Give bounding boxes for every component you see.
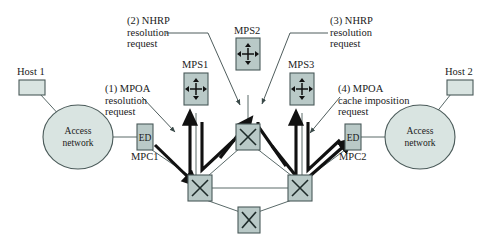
annotation-2: (2) NHRP resolution request <box>127 15 170 50</box>
switch-right[interactable] <box>288 175 312 201</box>
ed1-label: ED <box>139 133 152 143</box>
mps3-node[interactable] <box>290 73 314 105</box>
link-swright-swbottom <box>258 200 292 212</box>
annotation-1: (1) MPOA resolution request <box>105 83 150 118</box>
diagram-canvas: Access network Access network ED ED <box>0 0 493 248</box>
access-network-left-line1: Access <box>65 126 92 136</box>
host1-label: Host 1 <box>17 66 45 78</box>
host2-label: Host 2 <box>445 66 473 78</box>
mps2-node[interactable] <box>236 38 260 70</box>
flow-mpoa-request-1 <box>155 145 189 178</box>
access-network-left-line2: network <box>62 138 93 148</box>
mps2-label: MPS2 <box>234 25 260 37</box>
ed2-label: ED <box>347 133 360 143</box>
mps3-label: MPS3 <box>288 59 314 71</box>
switch-bottom[interactable] <box>238 207 260 233</box>
mpc2-label: MPC2 <box>339 151 366 163</box>
edge-device-2[interactable]: ED <box>345 124 361 150</box>
network-diagram: Access network Access network ED ED <box>0 0 493 248</box>
flow-nhrp-request-3b <box>272 146 296 176</box>
mpc1-label: MPC1 <box>131 151 158 163</box>
host1-box[interactable] <box>19 80 45 95</box>
host2-box[interactable] <box>447 80 473 95</box>
mps1-label: MPS1 <box>182 59 208 71</box>
switch-left[interactable] <box>188 175 212 201</box>
access-network-left-shape[interactable] <box>43 105 113 169</box>
mps1-node[interactable] <box>184 73 208 105</box>
switch-top[interactable] <box>236 124 260 150</box>
access-network-left[interactable]: Access network <box>43 105 113 169</box>
edge-device-1[interactable]: ED <box>137 124 153 150</box>
link-swleft-swbottom <box>206 200 240 212</box>
access-network-right-line1: Access <box>407 126 434 136</box>
access-network-right-line2: network <box>404 138 435 148</box>
annotation-3: (3) NHRP resolution request <box>330 15 373 50</box>
annotation-4: (4) MPOA cache imposition request <box>338 83 409 118</box>
